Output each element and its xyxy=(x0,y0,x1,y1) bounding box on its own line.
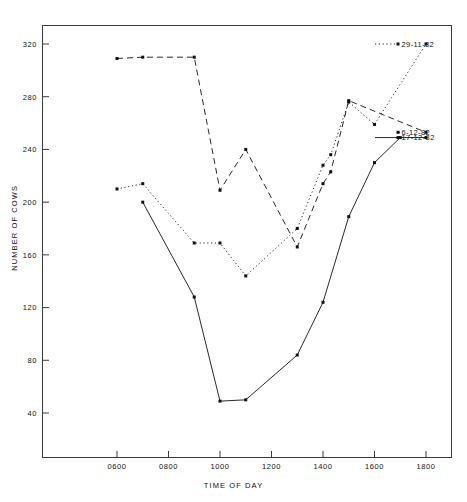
data-point xyxy=(219,400,222,403)
x-axis-label: TIME OF DAY xyxy=(0,481,467,490)
y-tick-label: 280 xyxy=(23,93,37,102)
legend-marker xyxy=(397,136,400,139)
data-point xyxy=(141,182,144,185)
y-tick-label: 320 xyxy=(23,40,37,49)
y-tick-label: 80 xyxy=(27,356,37,365)
data-point xyxy=(244,148,247,151)
data-point xyxy=(322,164,325,167)
data-point xyxy=(116,57,119,60)
y-axis-ticks: 4080120160200240280320 xyxy=(23,40,49,418)
series-line-29-11-82 xyxy=(117,44,426,276)
data-series-group xyxy=(116,43,428,403)
y-axis-label: NUMBER OF COWS xyxy=(10,185,19,271)
x-tick-label: 1600 xyxy=(365,462,384,471)
legend-marker xyxy=(397,43,400,46)
x-tick-label: 1200 xyxy=(262,462,281,471)
data-point xyxy=(219,241,222,244)
data-point xyxy=(329,153,332,156)
data-point xyxy=(296,245,299,248)
y-tick-label: 120 xyxy=(23,303,37,312)
y-tick-label: 160 xyxy=(23,251,37,260)
data-point xyxy=(373,123,376,126)
data-point xyxy=(244,274,247,277)
data-point xyxy=(141,56,144,59)
plot-frame xyxy=(43,26,452,458)
data-point xyxy=(347,99,350,102)
y-tick-label: 200 xyxy=(23,198,37,207)
y-tick-label: 40 xyxy=(27,409,37,418)
series-line-6-12-82 xyxy=(117,57,426,247)
y-tick-label: 240 xyxy=(23,145,37,154)
x-tick-label: 1000 xyxy=(210,462,229,471)
x-tick-label: 1400 xyxy=(313,462,332,471)
x-axis-ticks: 0600080010001200140016001800 xyxy=(107,451,435,471)
chart-container: 0600080010001200140016001800 40801201602… xyxy=(0,0,467,502)
data-point xyxy=(373,161,376,164)
legend-label-29-11-82: 29-11-82 xyxy=(402,40,435,49)
x-tick-label: 0800 xyxy=(159,462,178,471)
data-point xyxy=(219,189,222,192)
legend-marker xyxy=(397,131,400,134)
data-point xyxy=(193,296,196,299)
data-point xyxy=(296,354,299,357)
data-point xyxy=(322,301,325,304)
x-tick-label: 1800 xyxy=(416,462,435,471)
data-point xyxy=(141,201,144,204)
data-point xyxy=(347,215,350,218)
data-point xyxy=(116,187,119,190)
data-point xyxy=(329,170,332,173)
data-point xyxy=(322,182,325,185)
line-chart: 0600080010001200140016001800 40801201602… xyxy=(0,0,467,502)
x-tick-label: 0600 xyxy=(107,462,126,471)
data-point xyxy=(193,241,196,244)
data-point xyxy=(193,56,196,59)
chart-legend: 29-11-826-12-8217-12-82 xyxy=(375,40,435,143)
series-line-17-12-82 xyxy=(143,138,426,402)
data-point xyxy=(296,227,299,230)
data-point xyxy=(244,398,247,401)
legend-label-17-12-82: 17-12-82 xyxy=(402,133,435,142)
